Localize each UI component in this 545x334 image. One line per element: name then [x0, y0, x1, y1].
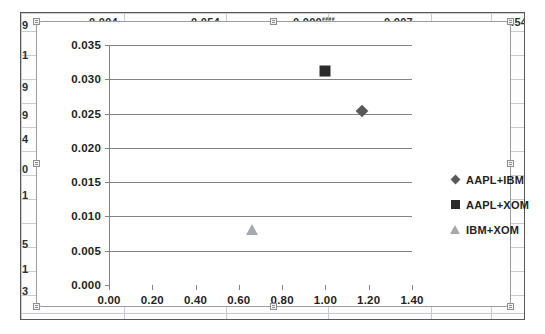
chart-plot-wrapper: 0.0000.0050.0100.0150.0200.0250.0300.035… — [37, 22, 510, 306]
legend-item[interactable]: AAPL+XOM — [447, 192, 529, 217]
x-axis-tick — [412, 285, 413, 290]
x-axis-tick-label: 1.40 — [400, 294, 423, 306]
y-axis-tick — [105, 182, 109, 183]
spreadsheet-cell[interactable]: 0 — [22, 163, 28, 175]
chart-object[interactable]: 0.0000.0050.0100.0150.0200.0250.0300.035… — [36, 21, 511, 307]
x-axis-tick — [325, 285, 326, 290]
y-axis-tick-label: 0.020 — [71, 142, 101, 154]
resize-handle-se[interactable] — [507, 303, 514, 310]
spreadsheet-cell[interactable]: 9 — [22, 19, 28, 31]
spreadsheet-cell[interactable]: 5 — [22, 238, 28, 250]
spreadsheet-row-divider — [21, 313, 524, 314]
legend-item-label: IBM+XOM — [466, 224, 519, 236]
data-point-diamond[interactable] — [356, 104, 369, 117]
triangle-marker-icon — [450, 225, 460, 234]
x-axis-tick — [196, 285, 197, 290]
y-axis-tick-label: 0.010 — [71, 210, 101, 222]
gridline — [109, 45, 412, 46]
spreadsheet-cell[interactable]: 9 — [22, 81, 28, 93]
y-axis-tick — [105, 79, 109, 80]
resize-handle-s[interactable] — [270, 303, 277, 310]
legend-swatch — [447, 200, 463, 209]
scanned-page-frame: 0.0040.0540.000####0.0074545 9199401513 … — [20, 12, 525, 320]
spreadsheet-cell[interactable]: 1 — [22, 263, 28, 275]
resize-handle-e[interactable] — [507, 160, 514, 167]
y-axis-line — [109, 45, 110, 285]
spreadsheet-cell[interactable]: 9 — [22, 109, 28, 121]
x-axis-tick — [282, 285, 283, 290]
gridline — [109, 148, 412, 149]
x-axis-tick-label: 0.20 — [141, 294, 164, 306]
x-axis-tick-label: 1.00 — [314, 294, 337, 306]
data-point-triangle[interactable] — [246, 224, 258, 235]
diamond-marker-icon — [450, 175, 460, 185]
gridline — [109, 251, 412, 252]
legend-item[interactable]: IBM+XOM — [447, 217, 529, 242]
spreadsheet-cell[interactable]: 1 — [22, 49, 28, 61]
y-axis-tick-label: 0.015 — [71, 176, 101, 188]
square-marker-icon — [451, 200, 460, 209]
y-axis-tick-label: 0.030 — [71, 73, 101, 85]
legend-item-label: AAPL+XOM — [466, 199, 529, 211]
y-axis-tick — [105, 216, 109, 217]
x-axis-tick-label: 0.60 — [227, 294, 250, 306]
spreadsheet-cell[interactable]: 4 — [22, 133, 28, 145]
y-axis-tick-label: 0.025 — [71, 108, 101, 120]
resize-handle-ne[interactable] — [507, 18, 514, 25]
legend-swatch — [447, 225, 463, 234]
chart-legend: AAPL+IBMAAPL+XOMIBM+XOM — [447, 167, 529, 242]
x-axis-tick — [109, 285, 110, 290]
x-axis-tick-label: 0.40 — [184, 294, 207, 306]
x-axis-tick — [239, 285, 240, 290]
x-axis-tick-label: 0.00 — [97, 294, 120, 306]
legend-swatch — [447, 176, 463, 183]
legend-item-label: AAPL+IBM — [466, 174, 524, 186]
x-axis-tick — [369, 285, 370, 290]
gridline — [109, 216, 412, 217]
x-axis-tick — [152, 285, 153, 290]
gridline — [109, 114, 412, 115]
y-axis-tick — [105, 148, 109, 149]
y-axis-tick — [105, 45, 109, 46]
resize-handle-w[interactable] — [33, 160, 40, 167]
gridline — [109, 182, 412, 183]
y-axis-tick — [105, 114, 109, 115]
y-axis-tick-label: 0.035 — [71, 39, 101, 51]
resize-handle-sw[interactable] — [33, 303, 40, 310]
resize-handle-nw[interactable] — [33, 18, 40, 25]
data-point-square[interactable] — [320, 66, 331, 77]
legend-item[interactable]: AAPL+IBM — [447, 167, 529, 192]
x-axis-tick-label: 1.20 — [357, 294, 380, 306]
spreadsheet-cell[interactable]: 1 — [22, 189, 28, 201]
plot-area: 0.0000.0050.0100.0150.0200.0250.0300.035… — [109, 45, 412, 285]
resize-handle-n[interactable] — [270, 18, 277, 25]
y-axis-tick-label: 0.000 — [71, 279, 101, 291]
spreadsheet-cell[interactable]: 3 — [22, 285, 28, 297]
spreadsheet-row-divider — [21, 13, 524, 14]
y-axis-tick-label: 0.005 — [71, 245, 101, 257]
y-axis-tick — [105, 251, 109, 252]
gridline — [109, 79, 412, 80]
